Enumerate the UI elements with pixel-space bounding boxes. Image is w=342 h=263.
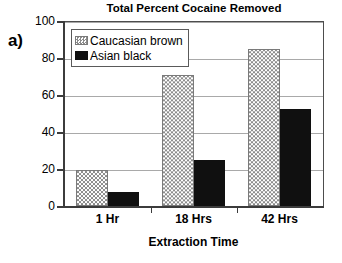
legend-item: Caucasian brown	[75, 33, 183, 48]
x-axis-tick-label: 42 Hrs	[261, 213, 298, 225]
legend-item-label: Caucasian brown	[90, 35, 183, 47]
y-axis-tick-label: 0	[48, 200, 55, 212]
bar	[248, 49, 280, 206]
y-axis-tick	[57, 132, 63, 134]
chart-title: Total Percent Cocaine Removed	[63, 2, 325, 15]
y-axis-tick	[57, 169, 63, 171]
y-axis-tick-label: 80	[42, 52, 55, 64]
bar	[280, 109, 312, 206]
bar	[76, 170, 108, 206]
y-axis-ticks: 020406080100	[0, 21, 63, 207]
x-axis-tick-label: 1 Hr	[96, 213, 119, 225]
bar	[162, 75, 194, 206]
x-axis-tick	[151, 207, 153, 213]
bar	[108, 192, 140, 206]
y-axis-tick	[57, 58, 63, 60]
legend: Caucasian brownAsian black	[71, 29, 189, 67]
x-axis-tick-label: 18 Hrs	[175, 213, 212, 225]
legend-item-label: Asian black	[90, 50, 151, 62]
y-axis-tick-label: 100	[35, 15, 55, 27]
x-axis-tick	[237, 207, 239, 213]
bar	[194, 160, 226, 206]
y-axis-tick	[57, 206, 63, 208]
y-axis-tick	[57, 21, 63, 23]
figure-panel-a: a) Total Percent Cocaine Removed 0204060…	[0, 0, 342, 263]
legend-item: Asian black	[75, 48, 183, 63]
y-axis-tick-label: 40	[42, 126, 55, 138]
x-axis-tick-labels: 1 Hr18 Hrs42 Hrs	[65, 213, 323, 231]
y-axis-tick	[57, 95, 63, 97]
y-axis-tick-label: 60	[42, 89, 55, 101]
y-axis-tick-label: 20	[42, 163, 55, 175]
solid-black-swatch	[75, 51, 88, 60]
x-axis-title: Extraction Time	[63, 236, 324, 248]
checkered-swatch	[75, 36, 88, 45]
